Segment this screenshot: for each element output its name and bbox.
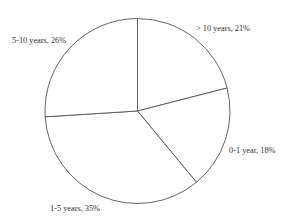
pie-slice-5-10-years — [45, 19, 138, 117]
pie-chart-canvas: > 10 years, 21%0-1 year, 18%1-5 years, 3… — [0, 0, 288, 222]
pie-slices — [45, 19, 230, 204]
slice-label: > 10 years, 21% — [196, 24, 250, 33]
slice-label: 5-10 years, 26% — [12, 36, 66, 45]
pie-chart: > 10 years, 21%0-1 year, 18%1-5 years, 3… — [0, 0, 288, 222]
slice-label: 0-1 year, 18% — [229, 146, 276, 155]
slice-label: 1-5 years, 35% — [50, 204, 100, 213]
